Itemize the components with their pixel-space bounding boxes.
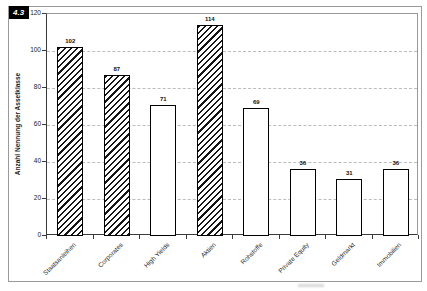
x-tick-mark <box>232 235 233 239</box>
bar-rohstoffe <box>243 108 269 236</box>
gridline-60 <box>47 125 417 126</box>
y-tick-mark <box>42 87 46 88</box>
x-category-label-geldmarkt: Geldmarkt <box>330 241 356 267</box>
y-tick-mark <box>42 50 46 51</box>
illegible-artifact <box>298 284 324 287</box>
bar-value-label: 69 <box>253 99 260 105</box>
x-tick-mark <box>93 235 94 239</box>
x-category-label-high-yields: High Yields <box>142 241 170 269</box>
bar-value-label: 71 <box>160 96 167 102</box>
bar-value-label: 36 <box>299 160 306 166</box>
x-tick-mark <box>325 235 326 239</box>
y-tick-mark <box>42 13 46 14</box>
bar-value-label: 114 <box>205 16 215 22</box>
gridline-40 <box>47 162 417 163</box>
bar-aktien <box>197 25 223 236</box>
x-tick-mark <box>46 235 47 239</box>
y-tick-mark <box>42 161 46 162</box>
y-tick-label-100: 100 <box>0 46 41 54</box>
x-category-label-staatsanleihen: Staatsanleihen <box>42 241 77 276</box>
x-category-label-private-equity: Private Equity <box>276 241 309 274</box>
figure-number-label: 4.3 <box>13 8 24 17</box>
bar-high-yields <box>150 105 176 236</box>
figure-number-badge: 4.3 <box>9 6 29 19</box>
x-category-label-aktien: Aktien <box>199 241 217 259</box>
y-tick-label-60: 60 <box>0 120 41 128</box>
x-tick-mark <box>139 235 140 239</box>
x-tick-mark <box>186 235 187 239</box>
y-tick-mark <box>42 198 46 199</box>
bar-value-label: 31 <box>346 170 353 176</box>
x-category-label-rohstoffe: Rohstoffe <box>239 241 264 266</box>
bar-value-label: 36 <box>392 160 399 166</box>
bar-geldmarkt <box>336 179 362 236</box>
bar-staatsanleihen <box>57 47 83 236</box>
y-tick-label-0: 0 <box>0 231 41 239</box>
bar-chart: Anzahl Nennung der Assetklasse 102877111… <box>0 0 427 291</box>
x-category-label-immobilien: Immobilien <box>376 241 403 268</box>
bar-corporates <box>104 75 130 236</box>
y-tick-label-20: 20 <box>0 194 41 202</box>
bar-value-label: 87 <box>113 66 120 72</box>
x-category-label-corporates: Corporates <box>96 241 124 269</box>
bar-private-equity <box>290 169 316 236</box>
x-tick-mark <box>418 235 419 239</box>
x-tick-mark <box>279 235 280 239</box>
bar-value-label: 102 <box>65 38 75 44</box>
gridline-80 <box>47 88 417 89</box>
y-tick-label-40: 40 <box>0 157 41 165</box>
bar-immobilien <box>383 169 409 236</box>
x-tick-mark <box>372 235 373 239</box>
y-tick-mark <box>42 124 46 125</box>
gridline-100 <box>47 51 417 52</box>
plot-area: 102877111469363136 <box>46 13 418 235</box>
y-tick-label-80: 80 <box>0 83 41 91</box>
